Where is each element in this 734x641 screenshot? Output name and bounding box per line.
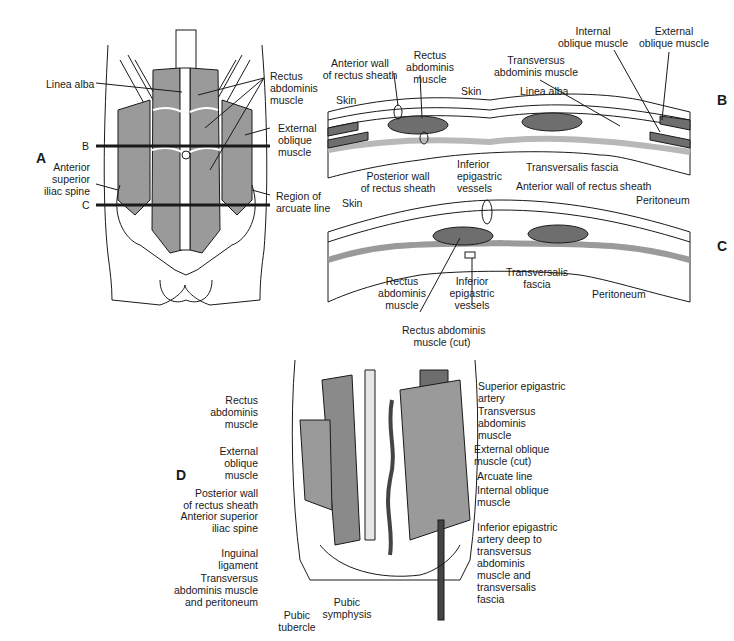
label-d-rectus-cut: Rectus abdominismuscle (cut) — [402, 324, 482, 348]
label-d-inferior-epigastric: Inferior epigastricartery deep totransve… — [477, 521, 558, 605]
label-b-peritoneum: Peritoneum — [636, 194, 690, 206]
label-b-linea-alba: Linea alba — [520, 85, 568, 97]
label-d-external-oblique: Externalobliquemuscle — [208, 445, 258, 481]
label-b-internal-oblique: Internaloblique muscle — [553, 25, 633, 49]
label-b-inferior-epigastric: Inferiorepigastricvessels — [457, 158, 502, 194]
label-b-transversalis: Transversalis fascia — [526, 161, 618, 173]
label-d-posterior-wall: Posterior wallof rectus sheath — [178, 487, 258, 511]
label-d-inguinal: Inguinalligament — [208, 547, 258, 571]
panel-d-drawing — [292, 360, 477, 620]
label-c-transversalis: Transversalisfascia — [502, 266, 572, 290]
section-line-b: B — [82, 140, 89, 152]
label-c-anterior-wall: Anterior wall of rectus sheath — [516, 180, 651, 192]
label-d-transversus: Transversusabdominismuscle — [478, 405, 535, 441]
label-b-skin-mid: Skin — [461, 85, 481, 97]
label-c-peritoneum: Peritoneum — [592, 288, 646, 300]
label-a-asis: Anteriorsuperioriliac spine — [30, 161, 90, 197]
section-line-c: C — [82, 199, 90, 211]
label-d-internal-oblique: Internal obliquemuscle — [477, 484, 549, 508]
label-d-pubic-symphysis: Pubicsymphysis — [317, 596, 377, 620]
label-a-rectus: Rectusabdominismuscle — [270, 70, 318, 106]
label-d-arcuate-line: Arcuate line — [477, 470, 532, 482]
panel-a-drawing — [96, 30, 270, 305]
label-d-asis: Anterior superioriliac spine — [168, 510, 258, 534]
label-c-inferior-epigastric: Inferiorepigastricvessels — [447, 275, 497, 311]
label-b-transversus: Transversusabdominis muscle — [486, 54, 586, 78]
label-b-skin-left: Skin — [336, 94, 356, 106]
label-d-superior-epigastric: Superior epigastricartery — [478, 380, 566, 404]
label-d-external-oblique-cut: External obliquemuscle (cut) — [474, 443, 549, 467]
label-b-external-oblique: Externaloblique muscle — [634, 25, 714, 49]
figure-artwork — [0, 0, 734, 641]
label-b-posterior-wall: Posterior wallof rectus sheath — [358, 170, 438, 194]
label-d-rectus: Rectusabdominismuscle — [208, 394, 258, 430]
label-a-external-oblique: Externalobliquemuscle — [278, 122, 317, 158]
label-b-anterior-wall: Anterior wallof rectus sheath — [320, 57, 400, 81]
label-c-rectus: Rectusabdominismuscle — [377, 275, 427, 311]
label-a-linea-alba: Linea alba — [46, 78, 94, 90]
label-d-transversus-peritoneum: Transversusabdominis muscleand peritoneu… — [168, 572, 258, 608]
label-d-pubic-tubercle: Pubictubercle — [272, 609, 322, 633]
panel-label-c: C — [717, 238, 727, 254]
panel-label-b: B — [717, 92, 727, 108]
panel-label-d: D — [176, 467, 186, 483]
label-b-rectus: Rectusabdominismuscle — [405, 49, 455, 85]
label-c-skin: Skin — [342, 197, 362, 209]
label-a-arcuate: Region ofarcuate line — [276, 190, 330, 214]
